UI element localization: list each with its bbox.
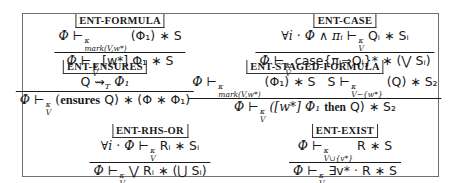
turnstile: ⊢κV (139, 139, 156, 160)
rule-premise: Q ⇝T Φ₁ (77, 75, 134, 89)
conclusion-rhs: ∃v* · R ∗ S (328, 164, 397, 178)
formula-phi: Φ (293, 164, 303, 178)
rule-ent-rhs-or: ENT-RHS-OR ∀i · Φ ⊢κV Rᵢ ∗ Sᵢ Φ ⊢κV ⋁ Rᵢ… (89, 124, 210, 183)
rule-label: ENT-ENSURES (63, 60, 147, 74)
formula-phi: Φ (58, 29, 68, 43)
rule-premise: Φ ⊢κmark(V,w*) (Φ₁) ∗ S (54, 29, 185, 50)
conclusion-part-b: Q) ∗ S₂ (350, 100, 396, 114)
premise-rhs: Qᵢ ∗ Sᵢ (368, 29, 409, 43)
formula-phi: Φ (298, 139, 308, 153)
rule-premise: ∀i · Φ ⊢κV Rᵢ ∗ Sᵢ (97, 139, 203, 160)
turnstile: ⊢κV (347, 29, 364, 50)
conclusion-rhs: ⋁ Rᵢ ∗ (⋃ Sᵢ) (129, 164, 207, 178)
premise-lhs: Q ⇝ (81, 75, 105, 89)
rule-label: ENT-CASE (314, 14, 377, 28)
turnstile: ⊢κV∪{v*} (312, 139, 353, 160)
rule-conclusion: Φ ⊢κV ∃v* · R ∗ S (289, 164, 401, 183)
keyword-then: then (324, 101, 346, 114)
turnstile: ⊢κmark(V,w*) (207, 75, 261, 96)
premise-rhs: Rᵢ ∗ Sᵢ (160, 139, 200, 153)
turnstile: ⊢κV (34, 93, 51, 114)
formula-phi: Φ (20, 93, 30, 107)
premise-rhs: (Φ₁) ∗ S (131, 29, 182, 43)
premise2-rhs: (Q) ∗ S₂ (387, 75, 438, 89)
premise2-lhs: S (328, 75, 336, 89)
rule-ent-ensures: ENT-ENSURES Q ⇝T Φ₁ Φ ⊢κV (ensuresQ) ∗ (… (16, 60, 194, 114)
keyword-ensures: ensures (60, 93, 100, 107)
rule-premises: Φ ⊢κmark(V,w*) (Φ₁) ∗ S S ⊢κV−{w*} (Q) ∗… (188, 75, 441, 96)
rule-ent-exist: ENT-EXIST Φ ⊢κV∪{v*} R ∗ S Φ ⊢κV ∃v* · R… (289, 124, 401, 183)
turnstile: ⊢κV (108, 164, 125, 183)
turnstile: ⊢κV (307, 164, 324, 183)
rule-label: ENT-EXIST (312, 124, 378, 138)
formula-phi1: Φ₁ (114, 75, 129, 89)
rule-conclusion: Φ ⊢κV ([w*] Φ₁ then Q) ∗ S₂ (230, 100, 400, 121)
rule-premise: ∀i · Φ ∧ πᵢ ⊢κV Qᵢ ∗ Sᵢ (277, 29, 412, 50)
rule-conclusion: Φ ⊢κV ⋁ Rᵢ ∗ (⋃ Sᵢ) (89, 164, 210, 183)
rule-premise: Φ ⊢κV∪{v*} R ∗ S (294, 139, 396, 160)
formula-phi: Φ (93, 164, 103, 178)
conclusion-rhs: Q) ∗ (Φ ∗ Φ₁) (104, 93, 190, 107)
turnstile: ⊢κmark(V,w*) (73, 29, 127, 50)
premise1-rhs: (Φ₁) ∗ S (265, 75, 316, 89)
turnstile: ⊢κV (248, 100, 265, 121)
rule-conclusion: Φ ⊢κV (ensuresQ) ∗ (Φ ∗ Φ₁) (16, 93, 194, 114)
premise-lhs: ∀i · Φ (101, 139, 135, 153)
premise-lhs: ∀i · Φ ∧ πᵢ (281, 29, 343, 43)
rule-label: ENT-FORMULA (75, 14, 165, 28)
turnstile: ⊢κV−{w*} (340, 75, 383, 96)
formula-phi: Φ (234, 100, 244, 114)
rule-label: ENT-STAGED-FORMULA (246, 60, 384, 74)
subscript-t: T (105, 82, 110, 91)
conclusion-part-a: ([w*] Φ₁ (269, 100, 320, 114)
formula-phi: Φ (192, 75, 202, 89)
premise-rhs: R ∗ S (357, 139, 392, 153)
rule-ent-staged-formula: ENT-STAGED-FORMULA Φ ⊢κmark(V,w*) (Φ₁) ∗… (188, 60, 441, 121)
rule-label: ENT-RHS-OR (112, 124, 188, 138)
